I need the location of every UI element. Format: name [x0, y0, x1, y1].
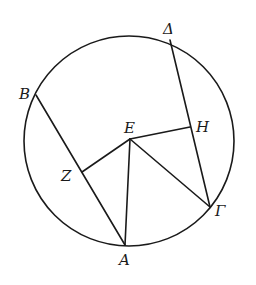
circle	[24, 36, 234, 246]
label-Z: Z	[60, 167, 72, 185]
segment-EZ	[82, 139, 130, 172]
geometry-diagram: B Δ E H Z A Γ	[0, 0, 256, 285]
radius-EA	[125, 139, 130, 245]
label-Gamma: Γ	[214, 202, 226, 220]
label-A: A	[117, 251, 130, 269]
label-B: B	[18, 85, 30, 103]
label-E: E	[123, 119, 135, 137]
label-H: H	[195, 118, 210, 136]
radius-EGamma	[130, 139, 210, 207]
label-Delta: Δ	[162, 20, 174, 38]
segment-EH	[130, 127, 190, 139]
chord-BA	[36, 95, 125, 245]
